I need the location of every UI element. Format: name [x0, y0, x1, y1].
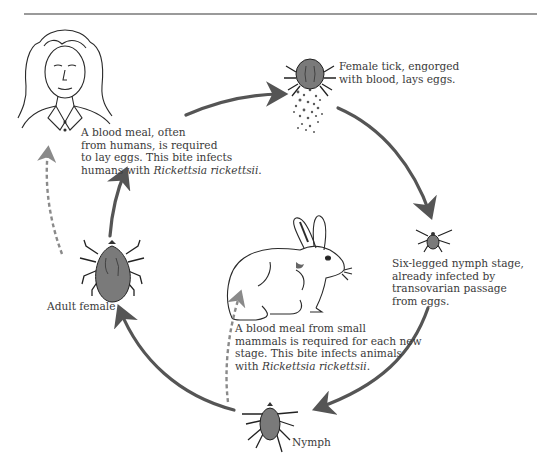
human-meal-annotation: A blood meal, often from humans, is requ… — [81, 126, 262, 176]
adult-female-label: Adult female — [47, 300, 115, 313]
human-illustration — [18, 30, 112, 131]
nymph-label: Nymph — [292, 436, 331, 449]
arrow-human-meal-to-female — [186, 94, 282, 115]
six-legged-nymph-caption: Six-legged nymph stage, already infected… — [392, 257, 524, 307]
adult-female-tick-icon — [80, 240, 144, 302]
arrow-nymph-to-adult — [120, 310, 234, 410]
dashed-arrow-adult-to-human — [47, 150, 62, 254]
engorged-female-tick-icon — [284, 59, 336, 133]
mammal-meal-annotation: A blood meal from small mammals is requi… — [235, 322, 422, 372]
nymph-tick-icon — [242, 402, 298, 452]
dashed-arrows — [47, 150, 240, 402]
six-legged-nymph-icon — [416, 230, 452, 252]
arrow-adult-to-human-meal — [110, 172, 125, 236]
rabbit-illustration — [228, 216, 352, 320]
arrow-female-to-six-legged-nymph — [338, 108, 430, 214]
engorged-female-caption: Female tick, engorged with blood, lays e… — [339, 60, 459, 85]
